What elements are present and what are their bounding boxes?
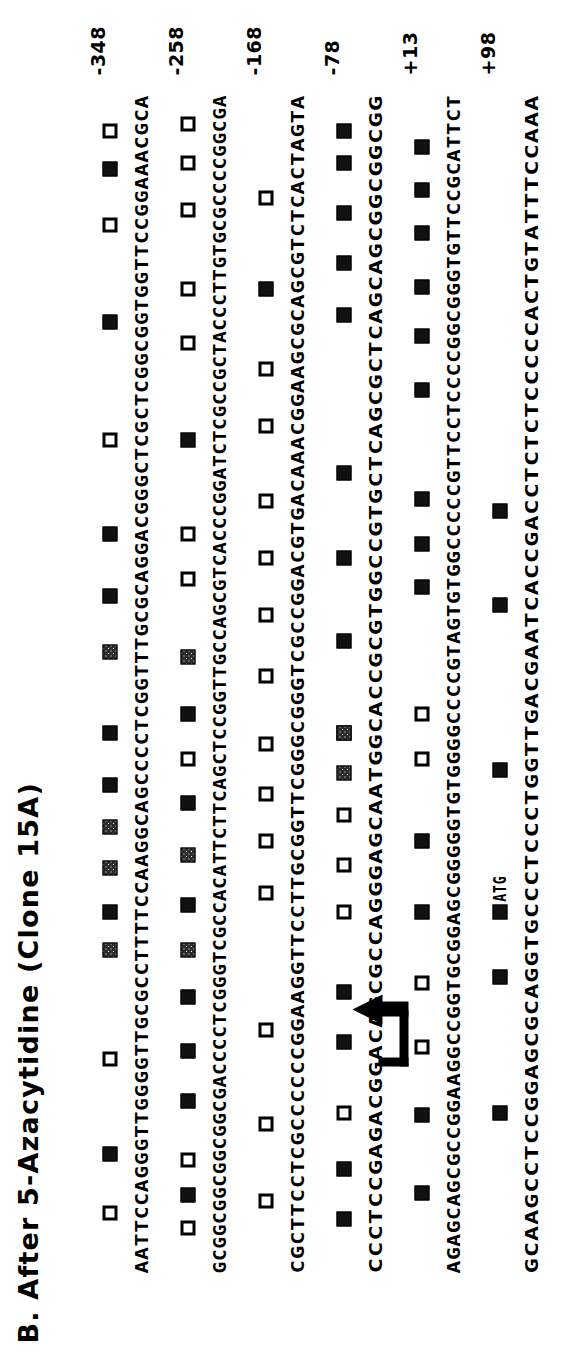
cpg-marker-filled xyxy=(492,904,507,919)
cpg-marker-filled xyxy=(414,279,429,294)
cpg-marker-open xyxy=(414,975,429,990)
cpg-marker-filled xyxy=(102,777,117,792)
cpg-marker-partial xyxy=(180,847,195,862)
cpg-marker-open xyxy=(258,736,273,751)
cpg-marker-filled xyxy=(180,897,195,912)
cpg-marker-open xyxy=(258,418,273,433)
cpg-marker-filled xyxy=(414,1185,429,1200)
dna-sequence-text: GCGGCGGCGGCGGCGACCCCTCGGGTCGCCACATTCTTCA… xyxy=(210,94,230,1273)
figure-title: B. After 5-Azacytidine (Clone 15A) xyxy=(12,782,43,1343)
position-label-minus78: -78 xyxy=(320,39,342,75)
cpg-marker-partial xyxy=(336,725,351,740)
cpg-marker-filled xyxy=(102,526,117,541)
cpg-marker-filled xyxy=(336,984,351,999)
cpg-marker-open xyxy=(258,190,273,205)
cpg-marker-filled xyxy=(492,969,507,984)
cpg-marker-partial xyxy=(102,644,117,659)
cpg-marker-open xyxy=(180,571,195,586)
cpg-marker-filled xyxy=(336,1211,351,1226)
cpg-marker-open xyxy=(258,1022,273,1037)
cpg-marker-open xyxy=(336,807,351,822)
cpg-marker-open xyxy=(180,281,195,296)
cpg-marker-partial xyxy=(180,942,195,957)
cpg-marker-open xyxy=(102,123,117,138)
cpg-marker-filled xyxy=(414,226,429,241)
cpg-marker-filled xyxy=(180,989,195,1004)
cpg-marker-open xyxy=(258,833,273,848)
figure-canvas: B. After 5-Azacytidine (Clone 15A) -348A… xyxy=(0,0,565,1361)
cpg-marker-open xyxy=(336,1105,351,1120)
sequence-row: -348AATTCCAGGGTTGGGGTTGCGCCTTTTCCAAGGCAG… xyxy=(88,0,166,1361)
position-label-plus13: +13 xyxy=(398,31,420,75)
cpg-marker-open xyxy=(258,786,273,801)
cpg-marker-filled xyxy=(336,307,351,322)
cpg-marker-filled xyxy=(102,725,117,740)
sequence-row: +98GCAAGCCTCCGGAGCGCAGGTGCCCTCCCTGGTTGAC… xyxy=(478,0,556,1361)
cpg-marker-open xyxy=(258,607,273,622)
cpg-marker-open xyxy=(180,751,195,766)
dna-sequence-text: CGCTTCCTCGCCCCCCGGAAGGTTCCTTGCGGTTCGGGCG… xyxy=(288,94,308,1273)
position-label-plus98: +98 xyxy=(476,31,498,75)
cpg-marker-filled xyxy=(258,281,273,296)
position-label-minus348: -348 xyxy=(86,25,108,75)
cpg-marker-filled xyxy=(180,1187,195,1202)
cpg-marker-filled xyxy=(102,588,117,603)
cpg-marker-open xyxy=(258,885,273,900)
cpg-marker-filled xyxy=(492,762,507,777)
arrow-head xyxy=(352,995,382,1025)
cpg-marker-partial xyxy=(102,942,117,957)
cpg-marker-filled xyxy=(180,1093,195,1108)
cpg-marker-filled xyxy=(414,904,429,919)
cpg-marker-open xyxy=(102,1052,117,1067)
cpg-marker-open xyxy=(414,751,429,766)
cpg-marker-filled xyxy=(492,597,507,612)
cpg-marker-open xyxy=(336,904,351,919)
cpg-marker-filled xyxy=(336,123,351,138)
cpg-marker-open xyxy=(180,1220,195,1235)
cpg-marker-open xyxy=(258,550,273,565)
cpg-marker-filled xyxy=(180,432,195,447)
cpg-marker-open xyxy=(102,1205,117,1220)
sequence-row: -78CCCTCCGAGACGGACAGCGCCAGGGAGCAATGGCACC… xyxy=(322,0,400,1361)
cpg-marker-open xyxy=(258,1116,273,1131)
atg-start-codon-label: ATG xyxy=(490,875,510,901)
cpg-marker-open xyxy=(258,361,273,376)
dna-sequence-text: GCAAGCCTCCGGAGCGCAGGTGCCCTCCCTGGTTGACGAA… xyxy=(522,94,542,1273)
position-label-minus168: -168 xyxy=(242,25,264,75)
arrow-stem-vertical xyxy=(378,1058,408,1067)
cpg-marker-filled xyxy=(336,465,351,480)
cpg-marker-open xyxy=(180,335,195,350)
transcription-start-site-arrow xyxy=(352,989,408,1067)
cpg-marker-filled xyxy=(414,328,429,343)
sequence-row: -258GCGGCGGCGGCGGCGACCCCTCGGGTCGCCACATTC… xyxy=(166,0,244,1361)
cpg-marker-filled xyxy=(492,1105,507,1120)
cpg-marker-filled xyxy=(102,904,117,919)
cpg-marker-filled xyxy=(180,795,195,810)
cpg-marker-open xyxy=(102,217,117,232)
cpg-marker-filled xyxy=(414,536,429,551)
cpg-marker-filled xyxy=(180,706,195,721)
cpg-marker-filled xyxy=(414,491,429,506)
cpg-marker-filled xyxy=(414,580,429,595)
dna-sequence-text: CCCTCCGAGACGGACAGCGCCAGGGAGCAATGGCACCGCG… xyxy=(366,94,386,1273)
cpg-marker-filled xyxy=(414,182,429,197)
arrow-head-stem xyxy=(378,1002,408,1017)
cpg-marker-open xyxy=(102,432,117,447)
sequence-row: -168CGCTTCCTCGCCCCCCGGAAGGTTCCTTGCGGTTCG… xyxy=(244,0,322,1361)
cpg-marker-filled xyxy=(336,1034,351,1049)
cpg-marker-filled xyxy=(180,1043,195,1058)
cpg-marker-open xyxy=(180,155,195,170)
dna-sequence-text: AATTCCAGGGTTGGGGTTGCGCCTTTTCCAAGGCAGCCCC… xyxy=(132,94,152,1273)
position-label-minus258: -258 xyxy=(164,25,186,75)
cpg-marker-filled xyxy=(336,1161,351,1176)
cpg-marker-open xyxy=(180,116,195,131)
cpg-marker-filled xyxy=(414,1107,429,1122)
cpg-marker-filled xyxy=(102,314,117,329)
cpg-marker-open xyxy=(180,1152,195,1167)
cpg-marker-filled xyxy=(336,155,351,170)
cpg-marker-filled xyxy=(414,382,429,397)
cpg-marker-filled xyxy=(102,161,117,176)
cpg-marker-open xyxy=(258,668,273,683)
cpg-marker-open xyxy=(414,1039,429,1054)
cpg-marker-open xyxy=(258,493,273,508)
